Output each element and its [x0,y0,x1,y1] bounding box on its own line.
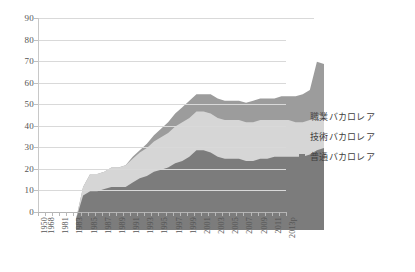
x-axis-tick-label: 1981 [62,217,70,234]
x-axis-tick-label: 1987 [105,217,113,234]
x-axis-tick-mark [173,212,174,216]
x-axis-tick-mark [243,212,244,216]
y-axis-tick-mark [34,169,38,170]
x-axis-tick-mark [109,212,110,216]
x-axis-tick-mark [166,212,167,216]
x-axis-tick-label: 1983 [76,217,84,234]
x-axis-tick-mark [187,212,188,216]
legend-item-label: 技術バカロレア [310,132,375,142]
y-axis-tick-mark [34,104,38,105]
x-axis-tick-mark [66,212,67,216]
x-axis-tick-mark [73,212,74,216]
legend-item[interactable]: 普通バカロレア [299,147,411,167]
x-axis-tick-mark [272,212,273,216]
x-axis-tick-label: 1991 [133,217,141,234]
x-axis-tick-label: 2011 [275,217,283,234]
x-axis-tick-mark [251,212,252,216]
legend-item-label: 普通バカロレア [310,152,375,162]
y-axis-tick-mark [34,126,38,127]
x-axis-tick-mark [137,212,138,216]
x-axis-tick-mark [52,212,53,216]
y-axis-tick-mark [34,190,38,191]
x-axis-tick-label: 1993 [147,217,155,234]
legend-item[interactable]: 職業バカロレア [299,107,411,127]
x-axis-tick-mark [144,212,145,216]
gridline [38,104,286,105]
x-axis-tick-label: 1985 [91,217,99,234]
x-axis-tick-mark [116,212,117,216]
x-axis-tick-mark [45,212,46,216]
x-axis-tick-label: 1989 [119,217,127,234]
x-axis-tick-mark [151,212,152,216]
x-axis-tick-mark [215,212,216,216]
x-axis-tick-mark [265,212,266,216]
x-axis-tick-label: 2003 [218,217,226,234]
stacked-area-chart: 0102030405060708090 19501968198119831985… [0,0,415,272]
legend-item[interactable]: 技術バカロレア [299,127,411,147]
y-axis-line [38,18,39,212]
gridline [38,190,286,191]
x-axis-tick-label: 2001 [204,217,212,234]
gridline [38,61,286,62]
y-axis-tick-mark [34,61,38,62]
x-axis-tick-mark [229,212,230,216]
gridline [38,83,286,84]
gridline [38,126,286,127]
x-axis-tick-mark [208,212,209,216]
chart-legend: 職業バカロレア技術バカロレア普通バカロレア [299,107,411,167]
x-axis-tick-mark [194,212,195,216]
y-axis-tick-marks [0,18,38,212]
legend-swatch-icon [299,134,305,140]
y-axis-tick-mark [34,83,38,84]
x-axis-tick-label: 1995 [161,217,169,234]
x-axis-tick-mark [95,212,96,216]
x-axis-tick-mark [59,212,60,216]
x-axis-tick-mark [279,212,280,216]
gridline [38,169,286,170]
x-axis-tick-mark [81,212,82,216]
gridline [38,147,286,148]
x-axis-tick-label: 1999 [190,217,198,234]
x-axis-tick-mark [258,212,259,216]
x-axis-tick-mark [38,212,39,216]
y-axis-tick-mark [34,147,38,148]
x-axis-tick-label: 2013p [289,217,297,238]
x-axis-tick-mark [130,212,131,216]
x-axis-tick-label: 2009 [261,217,269,234]
y-axis-tick-mark [34,18,38,19]
x-axis-tick-mark [236,212,237,216]
legend-swatch-icon [299,154,305,160]
legend-swatch-icon [299,114,305,120]
x-axis-tick-label: 2007 [246,217,254,234]
legend-item-label: 職業バカロレア [310,112,375,122]
gridline [38,18,314,19]
x-axis-tick-mark [123,212,124,216]
x-axis-tick-mark [158,212,159,216]
x-axis-tick-mark [102,212,103,216]
x-axis-tick-mark [222,212,223,216]
x-axis-tick-mark [88,212,89,216]
x-axis-tick-label: 1997 [176,217,184,234]
x-axis-tick-mark [286,212,287,216]
y-axis-tick-mark [34,40,38,41]
gridlines [38,18,286,212]
x-axis-tick-label: 1968 [48,217,56,234]
x-axis-tick-mark [180,212,181,216]
x-axis-tick-label: 2005 [232,217,240,234]
gridline [38,40,286,41]
x-axis-tick-labels: 1950196819811983198519871989199119931995… [38,217,287,269]
x-axis-tick-mark [201,212,202,216]
